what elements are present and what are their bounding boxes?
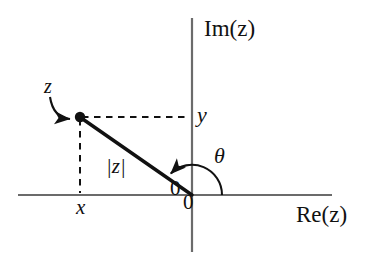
complex-point-label: z [44,76,52,96]
argand-diagram-figure: Im(z) Re(z) z y x |z| θ 0 0 [0,0,368,261]
origin-label-below: 0 [183,192,194,213]
real-part-label: x [76,197,85,218]
imaginary-part-label: y [197,104,207,126]
real-axis-label: Re(z) [296,203,347,226]
imaginary-axis-label: Im(z) [204,17,255,40]
origin-label-left: 0 [170,178,181,199]
modulus-label: |z| [106,156,126,177]
point-label-leader-arrow [50,97,70,119]
complex-point-marker [75,112,85,122]
argument-label: θ [214,145,225,167]
